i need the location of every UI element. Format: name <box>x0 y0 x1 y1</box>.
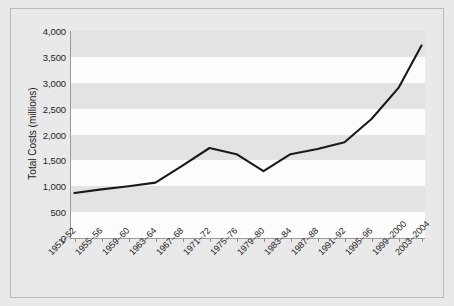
chart-figure: 4,000 3,500 3,000 2,500 2,000 1,500 1,00… <box>0 0 454 306</box>
x-tick-4 <box>183 238 184 242</box>
x-tick-8 <box>291 238 292 242</box>
x-tick-5 <box>210 238 211 242</box>
x-tick-6 <box>237 238 238 242</box>
x-tick-3 <box>156 238 157 242</box>
y-axis-tick-labels: 4,000 3,500 3,000 2,500 2,000 1,500 1,00… <box>0 0 454 306</box>
x-tick-13 <box>422 238 423 242</box>
y-tick-label-3500: 3,500 <box>28 52 66 63</box>
x-tick-11 <box>372 238 373 242</box>
x-tick-0 <box>75 238 76 242</box>
x-tick-7 <box>264 238 265 242</box>
y-axis-title: Total Costs (millions) <box>27 64 38 204</box>
y-tick-label-4000: 4,000 <box>28 26 66 37</box>
y-tick-label-500: 500 <box>28 207 66 218</box>
x-tick-12 <box>399 238 400 242</box>
x-tick-1 <box>102 238 103 242</box>
x-tick-2 <box>129 238 130 242</box>
x-tick-10 <box>345 238 346 242</box>
x-tick-9 <box>318 238 319 242</box>
